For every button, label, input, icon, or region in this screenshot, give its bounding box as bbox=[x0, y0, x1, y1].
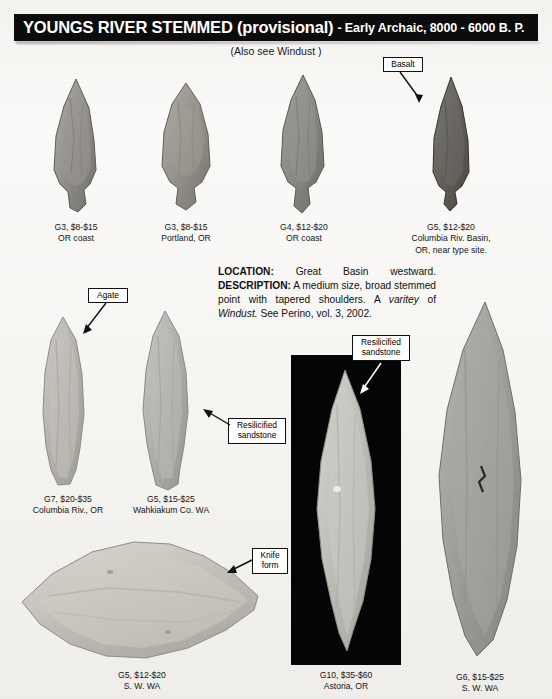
callout-basalt: Basalt bbox=[383, 57, 423, 72]
artifact-image-3 bbox=[268, 74, 338, 214]
artifact-caption-6: G5, $15-$25 Wahkiakum Co. WA bbox=[122, 494, 220, 517]
artifact-image-2 bbox=[148, 82, 224, 212]
callout-resilicified-sandstone-left: Resilicified sandstone bbox=[228, 418, 286, 444]
artifact-caption-7: G5, $12-$20 S. W. WA bbox=[92, 670, 192, 693]
artifact-image-4 bbox=[420, 76, 482, 212]
callout-resilicified-sandstone-right: Resilicified sandstone bbox=[352, 335, 410, 361]
reference-italic: Windust. bbox=[218, 308, 258, 319]
location-text: Great Basin westward. bbox=[296, 266, 436, 277]
artifact-image-1 bbox=[40, 78, 112, 213]
artifact-caption-3: G4, $12-$20 OR coast bbox=[262, 222, 346, 245]
leader-line-agate bbox=[76, 303, 112, 337]
callout-agate: Agate bbox=[88, 288, 128, 303]
artifact-caption-9: G6, $15-$25 S. W. WA bbox=[432, 672, 528, 695]
artifact-image-9 bbox=[425, 300, 529, 660]
leader-line-knife-form bbox=[222, 556, 254, 578]
artifact-image-8 bbox=[305, 369, 385, 653]
leader-line-basalt bbox=[395, 72, 429, 106]
page-title-period: - Early Archaic, 8000 - 6000 B. P. bbox=[337, 21, 524, 35]
callout-knife-form: Knife form bbox=[252, 548, 288, 574]
description-block: LOCATION: Great Basin westward. DESCRIPT… bbox=[218, 265, 436, 321]
leader-line-resilicified-left bbox=[198, 408, 232, 428]
page-subtitle: (Also see Windust ) bbox=[0, 45, 552, 57]
artifact-caption-4: G5, $12-$20 Columbia Riv. Basin, OR, nea… bbox=[398, 222, 504, 256]
description-text-3: See Perino, vol. 3, 2002. bbox=[258, 308, 372, 319]
leader-line-resilicified-right bbox=[355, 361, 387, 397]
artifact-caption-1: G3, $8-$15 OR coast bbox=[36, 222, 116, 245]
artifact-image-7 bbox=[18, 534, 266, 666]
page-title: YOUNGS RIVER STEMMED (provisional) bbox=[23, 18, 333, 37]
artifact-image-6 bbox=[132, 310, 198, 492]
artifact-caption-2: G3, $8-$15 Portland, OR bbox=[141, 222, 231, 245]
variety-word: varitey bbox=[389, 294, 419, 305]
artifact-caption-5: G7, $20-$35 Columbia Riv., OR bbox=[22, 494, 114, 517]
artifact-caption-8: G10, $35-$60 Astoria, OR bbox=[296, 670, 396, 693]
artifact-image-5 bbox=[32, 316, 94, 488]
photo-panel-dark bbox=[291, 355, 401, 665]
description-label: DESCRIPTION: bbox=[218, 280, 291, 291]
title-bar-shadow bbox=[16, 41, 540, 44]
location-label: LOCATION: bbox=[218, 266, 274, 277]
title-bar: YOUNGS RIVER STEMMED (provisional) - Ear… bbox=[14, 14, 538, 41]
